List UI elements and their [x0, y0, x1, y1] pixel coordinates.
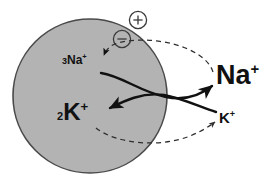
sodium-potassium-pump-diagram: 3Na+ 2K+ Na+ K+: [0, 0, 272, 184]
label-sodium-inside: 3Na+: [62, 54, 87, 66]
sodium-inside-charge: +: [82, 52, 86, 61]
potassium-inside-ion: K: [63, 98, 80, 125]
diagram-canvas: [0, 0, 272, 184]
label-potassium-outside: K+: [219, 110, 235, 125]
potassium-inside-charge: +: [80, 99, 88, 114]
potassium-outside-ion: K: [219, 109, 230, 126]
label-potassium-inside: 2K+: [57, 100, 88, 124]
label-sodium-outside: Na+: [216, 62, 259, 89]
potassium-outside-charge: +: [230, 109, 235, 119]
sodium-outside-charge: +: [251, 61, 260, 77]
plus-charge-icon: [129, 11, 146, 28]
sodium-inside-ion: Na: [67, 53, 82, 67]
sodium-outside-ion: Na: [216, 60, 251, 90]
